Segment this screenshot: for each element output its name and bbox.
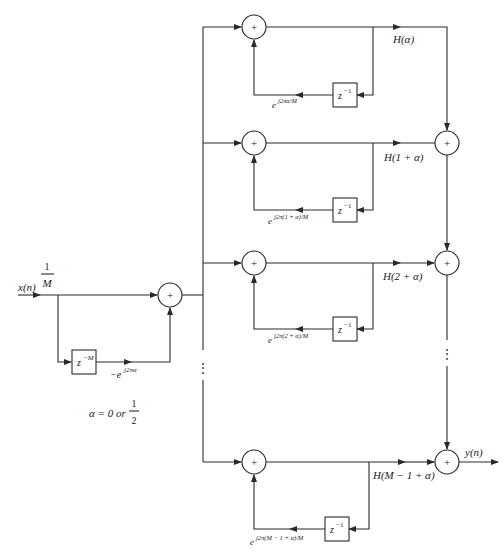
branch-1-fb-return [254,156,296,210]
branch-1-delay-exp: −1 [344,202,352,210]
resonator-branch-1: + z −1 e j2π(1 + α)/M H(1 + α) [203,131,435,226]
gain-numerator: 1 [45,261,50,272]
branch-3-gain: H(M − 1 + α) [372,469,435,482]
branch-2-coef-base: e [268,335,272,345]
branch-0-coef-exp: j2πα/M [277,97,298,104]
comb-feedforward-line [131,308,170,362]
sum-adder-final-plus: + [444,456,450,468]
branch-1-coef-exp: j2π(1 + α)/M [273,213,309,221]
input-label: x(n) [17,281,36,294]
sum-ellipsis: ⋮ [441,347,453,361]
resonator-branch-last: + z −1 e j2π(M − 1 + α)/M H(M − 1 + α) [203,450,435,547]
branch-3-delay-exp: −1 [336,521,344,529]
branch-1-delay-base: z [337,205,342,216]
branch-2-delay-base: z [337,324,342,335]
alpha-note-frac-num: 1 [132,398,137,409]
branch-2-coef-exp: j2π(2 + α)/M [273,332,309,340]
resonator-branch-2: + z −1 e j2π(2 + α)/M H(2 + α) [203,251,434,345]
comb-coef-base: −e [110,369,122,380]
branch-0-coef-base: e [272,100,276,110]
delay-z-m-base: z [76,357,81,368]
comb-branch-line [58,295,71,362]
branch-0-adder-plus: + [251,21,257,33]
branch-0-gain: H(α) [392,33,414,46]
branch-1-coef-base: e [268,216,272,226]
branch-0-fb-tap [357,27,373,95]
output-summation: + + ⋮ + y(n) [435,131,498,474]
branch-3-delay-base: z [329,524,334,535]
bus-ellipsis: ⋮ [197,361,209,375]
branch-1-gain: H(1 + α) [383,151,424,164]
branch-0-delay-exp: −1 [344,87,352,95]
branch-1-adder-plus: + [251,137,257,149]
comb-adder-plus: + [167,289,173,301]
gain-denominator: M [41,277,52,289]
branch-3-coef-exp: j2π(M − 1 + α)/M [255,534,304,542]
frequency-sampling-filter-diagram: x(n) 1 M z −M −e j2πα + α = 0 or 1 2 ⋮ + [0,0,504,558]
sum-adder-1-plus: + [444,137,450,149]
branch-3-adder-plus: + [251,456,257,468]
branch-1-fb-tap [357,143,373,210]
output-label: y(n) [464,446,483,459]
branch-0-fb-return [254,40,296,95]
resonator-branch-0: + z −1 e j2πα/M H(α) [203,15,447,130]
delay-z-m-exp: −M [83,354,95,362]
branch-3-coef-base: e [250,537,254,547]
branch-2-gain: H(2 + α) [382,270,423,283]
branch-3-fb-return [254,475,290,529]
distribution-bus: ⋮ [197,27,209,462]
input-section: x(n) 1 M z −M −e j2πα + α = 0 or 1 2 [17,261,203,426]
alpha-note-frac-den: 2 [132,415,137,426]
comb-coef-exp: j2πα [123,366,137,374]
branch-2-adder-plus: + [251,257,257,269]
branch-3-fb-tap [349,462,369,529]
branch-0-delay-base: z [337,90,342,101]
sum-adder-2-plus: + [444,257,450,269]
branch-2-fb-tap [357,263,373,329]
branch-2-fb-return [254,276,296,329]
alpha-note: α = 0 or [89,407,126,419]
branch-2-delay-exp: −1 [344,321,352,329]
